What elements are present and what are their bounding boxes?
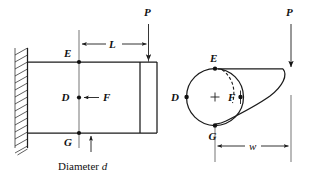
diameter-note-text: Diameter d bbox=[58, 160, 108, 172]
force-F-label: F bbox=[102, 91, 111, 103]
section-view-group: E D G F P w bbox=[170, 6, 293, 162]
fixed-wall bbox=[15, 48, 28, 155]
center-mark bbox=[211, 93, 220, 102]
point-G-label: G bbox=[64, 136, 72, 148]
side-view-group: E D G F P L Diameter d bbox=[15, 6, 157, 172]
engineering-figure: E D G F P L Diameter d bbox=[0, 0, 313, 180]
dimension-w: w bbox=[215, 95, 291, 162]
force-F-marker-section bbox=[238, 91, 242, 105]
point-D-label: D bbox=[61, 91, 70, 103]
dimension-w-label: w bbox=[249, 140, 257, 152]
force-F-label-section: F bbox=[227, 91, 236, 103]
point-G-marker bbox=[77, 131, 81, 135]
wall-hatching bbox=[15, 48, 28, 155]
point-D-marker bbox=[77, 95, 81, 99]
load-P-label: P bbox=[144, 6, 151, 18]
figure-canvas: E D G F P L Diameter d bbox=[0, 0, 313, 180]
point-E-marker bbox=[77, 60, 81, 64]
load-P-label-section: P bbox=[286, 6, 293, 18]
dimension-L: L bbox=[82, 30, 149, 62]
point-E-marker-section bbox=[213, 66, 217, 70]
tapered-arm bbox=[216, 69, 285, 124]
point-E-label-section: E bbox=[209, 52, 217, 64]
point-D-marker-section bbox=[184, 95, 188, 99]
point-D-label-section: D bbox=[170, 91, 179, 103]
point-E-label: E bbox=[63, 47, 71, 59]
dimension-L-label: L bbox=[108, 38, 116, 50]
